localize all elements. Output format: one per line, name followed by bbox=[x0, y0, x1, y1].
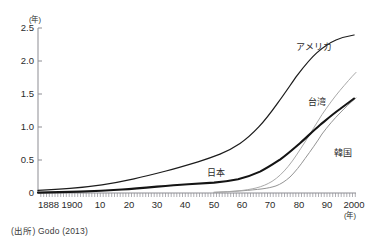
y-tick-label-1.5: 1.5 bbox=[21, 88, 34, 99]
x-tick-label-10: 10 bbox=[95, 199, 106, 210]
figure-container: (年) 2.5 2.0 1.5 1.0 0.5 0 bbox=[0, 0, 372, 241]
x-tick-label-60: 60 bbox=[237, 199, 248, 210]
x-tick-label-30: 30 bbox=[152, 199, 163, 210]
x-tick-label-70: 70 bbox=[265, 199, 276, 210]
series-label-korea: 韓国 bbox=[334, 148, 352, 158]
series-label-america: アメリカ bbox=[296, 42, 332, 52]
series-line-japan bbox=[38, 99, 354, 193]
series-line-taiwan bbox=[214, 72, 356, 192]
x-tick-label-40: 40 bbox=[180, 199, 191, 210]
line-chart: (年) 2.5 2.0 1.5 1.0 0.5 0 bbox=[0, 0, 372, 241]
y-tick-label-0: 0 bbox=[29, 187, 34, 198]
source-note: (出所) Godo (2013) bbox=[11, 224, 88, 236]
y-tick-label-2.0: 2.0 bbox=[21, 55, 34, 66]
y-tick-label-0.5: 0.5 bbox=[21, 154, 34, 165]
x-tick-label-1888: 1888 bbox=[38, 199, 59, 210]
x-tick-label-90: 90 bbox=[322, 199, 333, 210]
x-tick-label-2000: 2000 bbox=[343, 199, 364, 210]
x-tick-label-20: 20 bbox=[124, 199, 135, 210]
x-tick-label-80: 80 bbox=[294, 199, 305, 210]
y-tick-label-2.5: 2.5 bbox=[21, 22, 34, 33]
series-line-america bbox=[38, 35, 354, 190]
x-axis-minor-ticks bbox=[41, 193, 356, 197]
x-tick-label-50: 50 bbox=[209, 199, 220, 210]
series-label-taiwan: 台湾 bbox=[308, 96, 326, 107]
series-label-japan: 日本 bbox=[207, 167, 225, 178]
x-tick-label-1900: 1900 bbox=[61, 199, 82, 210]
x-axis-unit-label: (年) bbox=[344, 210, 356, 220]
y-axis-ticks bbox=[38, 28, 42, 160]
y-tick-label-1.0: 1.0 bbox=[21, 121, 34, 132]
